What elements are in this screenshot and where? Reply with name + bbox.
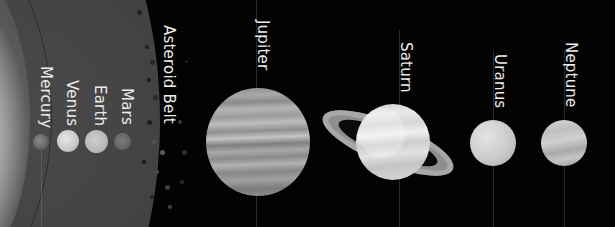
label-asteroid-belt: Asteroid Belt (160, 25, 178, 124)
solar-system-illustration: Mercury Venus Earth Mars Asteroid Belt J… (0, 0, 615, 227)
asteroid (153, 95, 158, 100)
label-neptune: Neptune (562, 42, 580, 108)
axis-line (41, 150, 42, 227)
label-mars: Mars (118, 88, 136, 125)
label-saturn: Saturn (397, 42, 415, 93)
planet-earth (85, 130, 108, 153)
saturn-highlight (359, 108, 405, 158)
asteroid (152, 140, 156, 144)
label-uranus: Uranus (491, 54, 509, 108)
asteroid (155, 170, 159, 174)
asteroid (137, 10, 142, 15)
asteroid (147, 78, 151, 82)
asteroid (178, 120, 182, 124)
asteroid (182, 150, 187, 155)
asteroid (150, 195, 154, 199)
asteroid (142, 160, 146, 164)
label-jupiter: Jupiter (254, 20, 272, 70)
asteroid (160, 150, 165, 155)
planet-uranus (470, 120, 516, 166)
asteroid (168, 205, 172, 209)
label-earth: Earth (91, 85, 109, 126)
asteroid (147, 120, 152, 125)
planet-neptune (541, 120, 587, 166)
label-mercury: Mercury (37, 66, 55, 128)
asteroid (185, 60, 188, 63)
planet-mercury (33, 134, 49, 150)
planet-venus (57, 130, 79, 152)
planet-jupiter (206, 88, 310, 196)
asteroid (180, 180, 184, 184)
label-venus: Venus (63, 80, 81, 126)
asteroid (150, 60, 155, 65)
asteroid (145, 45, 149, 49)
planet-mars (114, 133, 131, 150)
asteroid (165, 185, 170, 190)
